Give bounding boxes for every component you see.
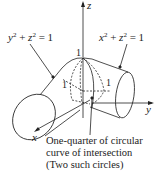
caption: One-quarter of circular curve of interse… [46, 135, 143, 171]
radius-label-right: 1 [106, 78, 111, 88]
caption-line-3: (Two such circles) [46, 159, 143, 171]
z-axis-arrow [81, 1, 85, 7]
x-axis-label: x [32, 132, 37, 143]
leader-caption-dot [91, 97, 93, 99]
eq-left-plus: + [19, 31, 25, 43]
leader-left-dot [52, 76, 54, 78]
caption-line-1: One-quarter of circular [46, 135, 143, 147]
eq-right-plus: + [110, 31, 116, 43]
eq-right-exp1: 2 [104, 31, 108, 39]
eq-right-rhs: = 1 [130, 31, 144, 43]
intersection-curve-hidden-2 [80, 58, 83, 104]
leader-right-eq [120, 44, 127, 67]
y-cylinder-top-edge [84, 58, 128, 72]
leader-caption [90, 98, 92, 135]
caption-line-2: curve of intersection [46, 147, 143, 159]
eq-left-rhs: = 1 [39, 31, 53, 43]
x-cylinder-top-edge [40, 58, 82, 95]
y-axis-label: y [146, 104, 151, 115]
y-cylinder-end [113, 71, 137, 119]
eq-right-exp2: 2 [123, 31, 127, 39]
equation-left: y2 + z2 = 1 [8, 32, 53, 43]
eq-left-exp1: 2 [13, 31, 17, 39]
leader-right-dot [119, 66, 121, 68]
equation-right: x2 + z2 = 1 [99, 32, 144, 43]
intersection-curve-hidden-4 [72, 100, 90, 104]
radius-label-top: 1 [76, 48, 81, 58]
z-axis-label: z [87, 0, 91, 11]
x-axis [36, 100, 90, 130]
leader-left-eq [30, 44, 53, 77]
y-cylinder-bottom-edge [90, 107, 120, 118]
eq-left-exp2: 2 [32, 31, 36, 39]
x-cylinder-bottom-edge [45, 110, 80, 136]
radius-label-left: 1 [62, 80, 67, 90]
